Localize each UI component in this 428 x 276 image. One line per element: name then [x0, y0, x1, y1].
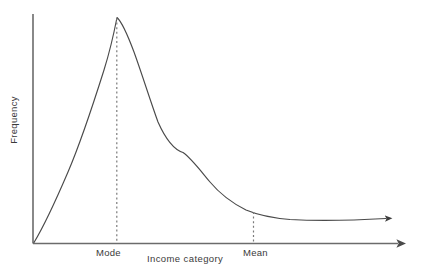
distribution-plot — [0, 0, 428, 276]
distribution-curve — [34, 18, 386, 243]
skewed-income-distribution-figure: Frequency Income category Mode Mean — [0, 0, 428, 276]
y-axis-label-text: Frequency — [8, 96, 19, 144]
mode-label: Mode — [96, 248, 121, 258]
x-axis-label: Income category — [147, 254, 223, 264]
mean-label: Mean — [243, 248, 268, 258]
y-axis-label: Frequency — [2, 60, 24, 180]
